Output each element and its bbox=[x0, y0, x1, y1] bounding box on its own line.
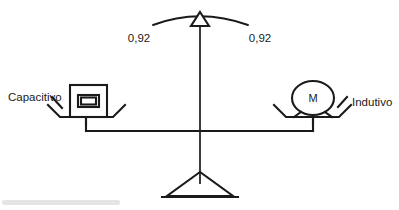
balance-scale-diagram: 0,92 0,92 Capacitivo Indutivo M bbox=[0, 0, 399, 210]
label-inductive: Indutivo bbox=[352, 96, 392, 108]
motor-symbol-letter: M bbox=[308, 92, 317, 104]
reading-right-value: 0,92 bbox=[249, 32, 271, 44]
reading-left-value: 0,92 bbox=[128, 32, 150, 44]
scan-artifact bbox=[2, 200, 120, 205]
triangle-pointer-icon bbox=[191, 12, 209, 26]
label-capacitive: Capacitivo bbox=[8, 91, 62, 103]
capacitor-plate-inner bbox=[81, 98, 96, 105]
diagram-canvas: 0,92 0,92 Capacitivo Indutivo M bbox=[0, 0, 399, 210]
leader-line-right bbox=[338, 97, 347, 107]
